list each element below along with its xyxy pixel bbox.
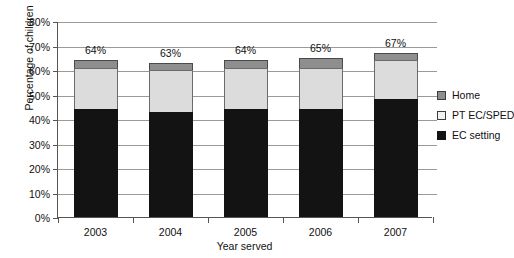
y-axis-tick <box>53 145 58 146</box>
bar-segment-ec-setting <box>299 109 343 217</box>
bar-total-label: 64% <box>235 44 256 56</box>
x-axis-tick <box>283 217 284 223</box>
x-axis-tick-label: 2005 <box>234 226 257 238</box>
y-axis-tick-label: 60% <box>29 65 50 77</box>
y-axis-tick-label: 80% <box>29 16 50 28</box>
bar-segment-pt-ec-sped <box>374 60 418 99</box>
y-axis-tick <box>53 120 58 121</box>
bar-total-label: 64% <box>85 44 106 56</box>
x-axis-tick <box>133 217 134 223</box>
legend-item-home[interactable]: Home <box>437 85 514 105</box>
y-axis-tick-label: 10% <box>29 188 50 200</box>
bar-total-label: 67% <box>385 37 406 49</box>
y-axis-tick <box>53 71 58 72</box>
plot-area: 0%10%20%30%40%50%60%70%80%64%200363%2004… <box>57 22 432 218</box>
bar-2004[interactable]: 63% <box>149 63 193 217</box>
y-axis-tick-label: 30% <box>29 139 50 151</box>
bar-segment-home <box>374 53 418 60</box>
legend-label-ec-setting: EC setting <box>452 129 500 141</box>
bar-segment-home <box>224 60 268 67</box>
legend-item-pt-ec-sped[interactable]: PT EC/SPED <box>437 105 514 125</box>
home-swatch-icon <box>437 91 446 100</box>
bar-segment-ec-setting <box>74 109 118 217</box>
y-axis-tick-label: 50% <box>29 90 50 102</box>
x-axis-tick <box>58 217 59 223</box>
x-axis-tick-label: 2003 <box>84 226 107 238</box>
bar-2005[interactable]: 64% <box>224 60 268 217</box>
y-axis-tick-label: 20% <box>29 163 50 175</box>
bar-segment-home <box>299 58 343 68</box>
bar-segment-pt-ec-sped <box>299 68 343 110</box>
bar-2003[interactable]: 64% <box>74 60 118 217</box>
x-axis-tick-label: 2004 <box>159 226 182 238</box>
bar-2006[interactable]: 65% <box>299 58 343 217</box>
y-axis-tick <box>53 47 58 48</box>
bar-segment-home <box>74 60 118 67</box>
x-axis-tick <box>358 217 359 223</box>
bar-segment-home <box>149 63 193 70</box>
x-axis-tick <box>208 217 209 223</box>
y-axis-tick-label: 0% <box>35 212 50 224</box>
bar-segment-ec-setting <box>374 99 418 217</box>
bar-segment-pt-ec-sped <box>224 68 268 110</box>
ec-setting-swatch-icon <box>437 131 446 140</box>
bar-segment-pt-ec-sped <box>74 68 118 110</box>
bar-total-label: 65% <box>310 42 331 54</box>
y-axis-tick-label: 70% <box>29 41 50 53</box>
legend-item-ec-setting[interactable]: EC setting <box>437 125 514 145</box>
bar-segment-ec-setting <box>149 112 193 217</box>
bar-segment-ec-setting <box>224 109 268 217</box>
y-axis-tick <box>53 194 58 195</box>
y-axis-tick-label: 40% <box>29 114 50 126</box>
pt-ec-sped-swatch-icon <box>437 111 446 120</box>
y-axis-tick <box>53 96 58 97</box>
x-axis-tick <box>433 217 434 223</box>
legend-label-home: Home <box>452 89 480 101</box>
gridline <box>58 22 437 23</box>
legend-label-pt-ec-sped: PT EC/SPED <box>452 109 514 121</box>
bar-2007[interactable]: 67% <box>374 53 418 217</box>
x-axis-title: Year served <box>57 240 432 252</box>
bar-segment-pt-ec-sped <box>149 70 193 112</box>
bar-total-label: 63% <box>160 47 181 59</box>
x-axis-tick-label: 2006 <box>309 226 332 238</box>
y-axis-tick <box>53 169 58 170</box>
y-axis-tick <box>53 22 58 23</box>
legend: Home PT EC/SPED EC setting <box>437 85 514 145</box>
x-axis-tick-label: 2007 <box>384 226 407 238</box>
